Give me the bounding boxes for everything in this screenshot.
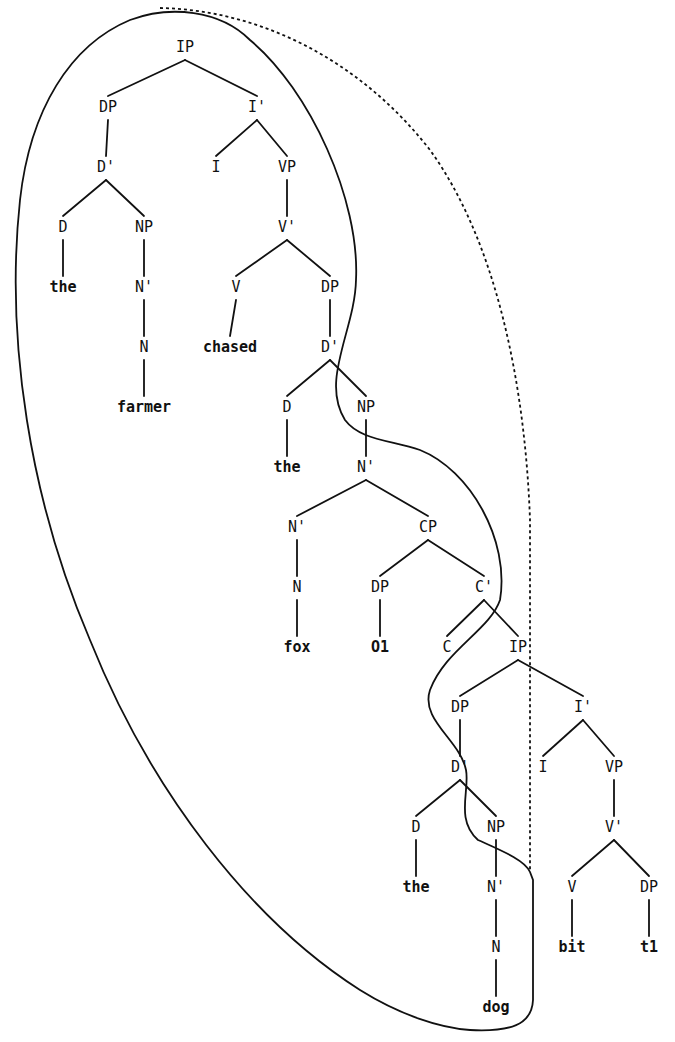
tree-branch (216, 120, 257, 156)
category-node-c1: C (442, 638, 451, 656)
category-node-d1: D (58, 218, 67, 236)
tree-branch (428, 540, 484, 576)
category-node-ip2: IP (509, 638, 527, 656)
category-node-nbar3: N' (288, 518, 306, 536)
tree-branch (287, 360, 330, 396)
tree-branch (460, 660, 518, 696)
syntax-tree-diagram: IPDPI'D'IVPDNPV'theN'VDPNchasedD'farmerD… (0, 0, 675, 1042)
tree-branch (106, 180, 144, 216)
category-node-vp2: VP (605, 758, 623, 776)
tree-branch (297, 480, 366, 516)
category-node-n3: N (491, 938, 500, 956)
category-node-d3: D (411, 818, 420, 836)
category-node-dbar3: D' (451, 758, 469, 776)
category-node-dp2: DP (321, 278, 339, 296)
terminal-word-bit: bit (558, 938, 585, 956)
tree-branch (108, 60, 185, 96)
tree-branch (185, 60, 257, 96)
tree-edges (63, 60, 649, 996)
tree-nodes: IPDPI'D'IVPDNPV'theN'VDPNchasedD'farmerD… (49, 38, 658, 1016)
category-node-nbar2: N' (357, 458, 375, 476)
terminal-word-the1: the (49, 278, 76, 296)
tree-branch (236, 240, 287, 276)
tree-branch (543, 720, 583, 756)
category-node-v2: V (567, 878, 576, 896)
category-node-n1: N (139, 338, 148, 356)
solid-boundary-outline (16, 12, 533, 1031)
category-node-n2: N (292, 578, 301, 596)
tree-branch (614, 840, 649, 876)
category-node-ibar2: I' (574, 698, 592, 716)
tree-branch (63, 180, 106, 216)
tree-branch (106, 120, 108, 156)
terminal-word-dog: dog (482, 998, 509, 1016)
terminal-word-fox: fox (283, 638, 310, 656)
category-node-cbar1: C' (475, 578, 493, 596)
tree-branch (416, 780, 460, 816)
category-node-dbar1: D' (97, 158, 115, 176)
dotted-boundary-outline (160, 8, 530, 872)
terminal-word-t1: t1 (640, 938, 658, 956)
category-node-nbar4: N' (487, 878, 505, 896)
category-node-d2: D (282, 398, 291, 416)
category-node-dp4: DP (451, 698, 469, 716)
category-node-nbar1: N' (135, 278, 153, 296)
category-node-dp1: DP (99, 98, 117, 116)
category-node-vbar1: V' (278, 218, 296, 236)
category-node-i2: I (538, 758, 547, 776)
tree-branch (257, 120, 287, 156)
category-node-np2: NP (357, 398, 375, 416)
category-node-np1: NP (135, 218, 153, 236)
tree-branch (380, 540, 428, 576)
terminal-word-chased: chased (203, 338, 257, 356)
category-node-v1: V (231, 278, 240, 296)
category-node-dbar2: D' (321, 338, 339, 356)
category-node-vp1: VP (278, 158, 296, 176)
terminal-word-o1: O1 (371, 638, 389, 656)
tree-branch (518, 660, 583, 696)
tree-branch (230, 300, 236, 336)
tree-branch (287, 240, 330, 276)
terminal-word-farmer: farmer (117, 398, 171, 416)
category-node-np3: NP (487, 818, 505, 836)
category-node-dp3: DP (371, 578, 389, 596)
tree-branch (366, 480, 428, 516)
category-node-ibar1: I' (248, 98, 266, 116)
terminal-word-the3: the (402, 878, 429, 896)
category-node-cp1: CP (419, 518, 437, 536)
category-node-i1: I (211, 158, 220, 176)
terminal-word-the2: the (273, 458, 300, 476)
category-node-dp5: DP (640, 878, 658, 896)
tree-branch (583, 720, 614, 756)
category-node-ip1: IP (176, 38, 194, 56)
category-node-vbar2: V' (605, 818, 623, 836)
tree-branch (572, 840, 614, 876)
